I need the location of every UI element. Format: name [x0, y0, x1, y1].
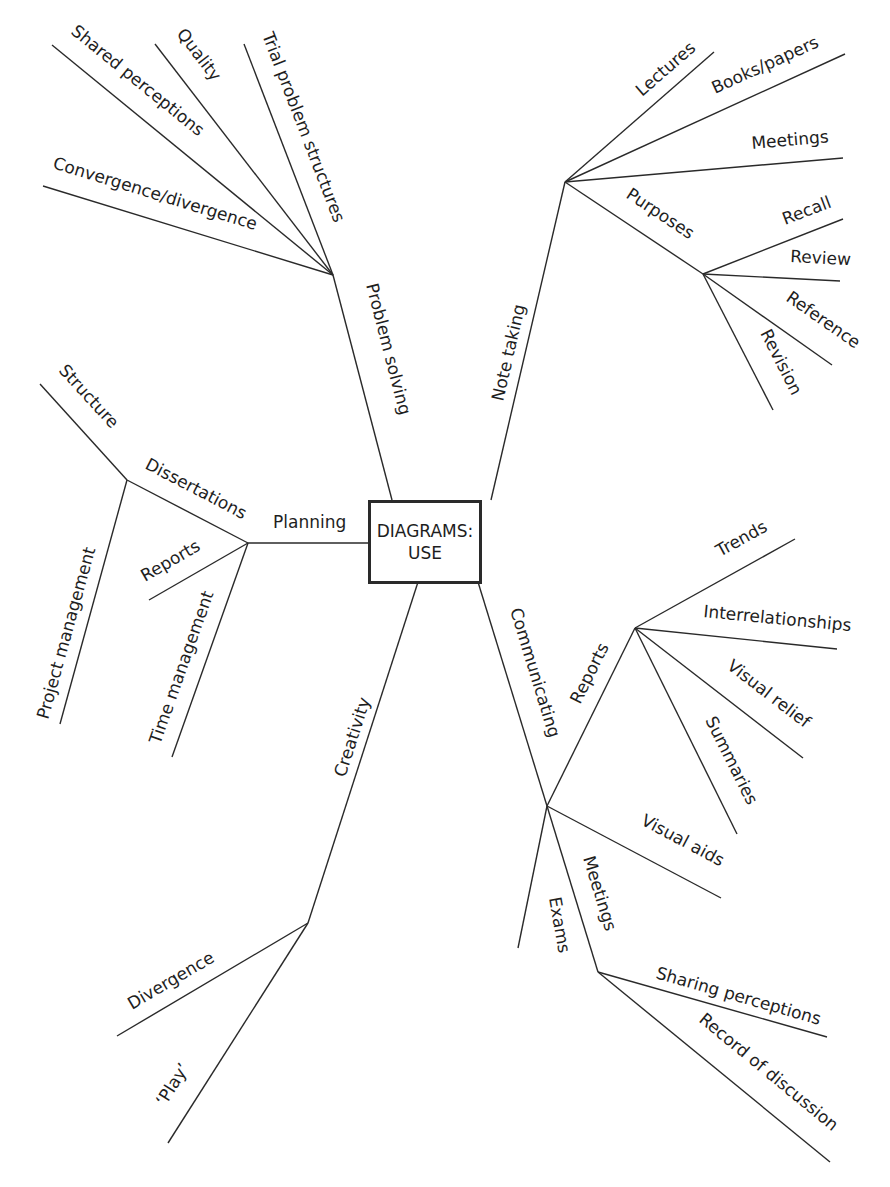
label-record-of-discussion: Record of discussion: [695, 1009, 842, 1135]
label-convergence-divergence: Convergence/divergence: [51, 153, 260, 234]
label-books-papers: Books/papers: [708, 32, 821, 98]
central-topic-line2: USE: [408, 542, 442, 564]
central-topic-line1: DIAGRAMS:: [377, 520, 474, 542]
label-quality: Quality: [173, 24, 226, 84]
branch-communicating: Communicating Reports Visual aids Exams …: [478, 516, 852, 1162]
label-meetings-notes: Meetings: [751, 126, 830, 153]
central-topic-box: DIAGRAMS: USE: [368, 500, 482, 584]
label-review: Review: [790, 246, 852, 269]
label-lectures: Lectures: [632, 37, 700, 100]
label-meetings-communicating: Meetings: [579, 853, 621, 933]
label-reports-communicating: Reports: [566, 639, 613, 706]
label-purposes: Purposes: [623, 184, 698, 243]
label-reports-planning: Reports: [137, 535, 204, 585]
branch-note-taking: Note taking Lectures Books/papers Meetin…: [487, 32, 864, 500]
label-revision: Revision: [756, 326, 806, 398]
branch-problem-solving: Problem solving Convergence/divergence S…: [43, 21, 415, 500]
mind-map: Problem solving Convergence/divergence S…: [0, 0, 890, 1187]
label-note-taking: Note taking: [487, 302, 529, 403]
label-summaries: Summaries: [701, 713, 762, 808]
label-exams: Exams: [545, 895, 575, 954]
label-problem-solving: Problem solving: [362, 281, 415, 417]
label-interrelationships: Interrelationships: [703, 601, 853, 635]
label-trends: Trends: [711, 516, 770, 561]
label-project-management: Project management: [33, 544, 100, 721]
label-structure: Structure: [55, 360, 123, 432]
label-time-management: Time management: [145, 588, 218, 748]
label-reference: Reference: [783, 287, 865, 352]
branch-creativity: Creativity Divergence ‘Play’: [117, 582, 418, 1143]
label-dissertations: Dissertations: [142, 454, 250, 523]
branch-planning: Planning Dissertations Reports Time mana…: [33, 360, 368, 757]
label-visual-relief: Visual relief: [724, 655, 816, 732]
label-recall: Recall: [779, 192, 834, 229]
label-communicating: Communicating: [506, 605, 564, 739]
label-planning: Planning: [273, 512, 346, 532]
label-play: ‘Play’: [152, 1059, 194, 1109]
